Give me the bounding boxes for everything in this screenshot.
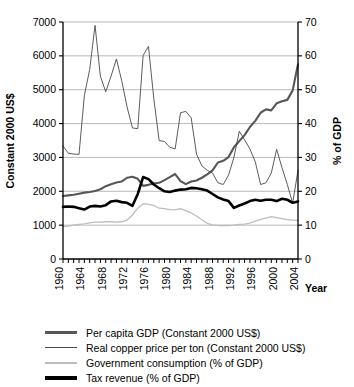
y-right-tick-label: 20 (305, 185, 317, 197)
y-left-tick-label: 4000 (33, 117, 57, 129)
x-tick-label: 1980 (160, 267, 172, 291)
legend-label-tax-revenue: Tax revenue (% of GDP) (86, 372, 200, 384)
y-right-tick-label: 70 (305, 16, 317, 28)
y-right-tick-label: 50 (305, 83, 317, 95)
x-tick-label: 1996 (245, 267, 257, 291)
x-tick-label: 1976 (138, 267, 150, 291)
y-axis-right-title: % of GDP (331, 117, 343, 165)
y-right-tick-label: 0 (305, 253, 311, 265)
x-axis-tick-labels: 1960196419681972197619801984198819921996… (53, 267, 300, 291)
legend-swatch-copper-price (44, 347, 78, 348)
x-tick-label: 1960 (53, 267, 65, 291)
x-tick-label: 1992 (224, 267, 236, 291)
legend-swatch-per-capita-gdp (44, 331, 78, 334)
chart-figure: 01000200030004000500060007000 0102030405… (0, 0, 354, 387)
y-left-tick-label: 5000 (33, 83, 57, 95)
legend-label-copper-price: Real copper price per ton (Constant 2000… (86, 342, 305, 354)
legend-label-government-consumption: Government consumption (% of GDP) (86, 357, 263, 369)
y-left-tick-label: 1000 (33, 219, 57, 231)
x-tick-label: 1964 (74, 267, 86, 291)
y-left-tick-label: 3000 (33, 151, 57, 163)
x-axis-title: Year (305, 282, 327, 294)
x-tick-label: 2004 (288, 267, 300, 291)
legend-swatch-government-consumption (44, 362, 78, 364)
legend-swatch-tax-revenue (44, 376, 78, 380)
y-left-tick-label: 6000 (33, 49, 57, 61)
y-right-tick-label: 30 (305, 151, 317, 163)
legend-item: Per capita GDP (Constant 2000 US$) (44, 325, 344, 340)
x-tick-label: 1968 (96, 267, 108, 291)
series-line-1 (63, 25, 298, 203)
y-right-tick-label: 60 (305, 49, 317, 61)
legend-label-per-capita-gdp: Per capita GDP (Constant 2000 US$) (86, 327, 260, 339)
x-tick-label: 1984 (181, 267, 193, 291)
tick-marks (59, 22, 302, 263)
y-axis-right-tick-labels: 010203040506070 (305, 16, 317, 265)
x-tick-label: 2000 (267, 267, 279, 291)
x-tick-label: 1972 (117, 267, 129, 291)
chart-legend: Per capita GDP (Constant 2000 US$) Real … (44, 325, 344, 385)
y-axis-left-tick-labels: 01000200030004000500060007000 (33, 16, 57, 265)
legend-item: Real copper price per ton (Constant 2000… (44, 340, 344, 355)
y-left-tick-label: 2000 (33, 185, 57, 197)
x-tick-label: 1988 (203, 267, 215, 291)
y-left-tick-label: 7000 (33, 16, 57, 28)
legend-item: Government consumption (% of GDP) (44, 355, 344, 370)
legend-item: Tax revenue (% of GDP) (44, 370, 344, 385)
y-right-tick-label: 10 (305, 219, 317, 231)
y-axis-left-title: Constant 2000 US$ (4, 93, 16, 188)
y-left-tick-label: 0 (50, 253, 56, 265)
series-line-0 (63, 64, 298, 196)
y-right-tick-label: 40 (305, 117, 317, 129)
